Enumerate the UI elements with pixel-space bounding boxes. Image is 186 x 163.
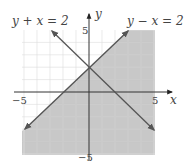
equation-label-2: y − x = 2 xyxy=(126,14,184,28)
x-axis-label: x xyxy=(170,93,177,107)
coordinate-graph: y + x = 2 y − x = 2 y x −5 5 5 −5 xyxy=(0,0,186,163)
y-tick-min: −5 xyxy=(78,152,93,163)
y-tick-max: 5 xyxy=(82,25,88,36)
y-axis-label: y xyxy=(94,7,102,21)
equation-label-1: y + x = 2 xyxy=(11,14,69,28)
x-tick-min: −5 xyxy=(12,95,27,106)
x-tick-max: 5 xyxy=(152,95,158,106)
